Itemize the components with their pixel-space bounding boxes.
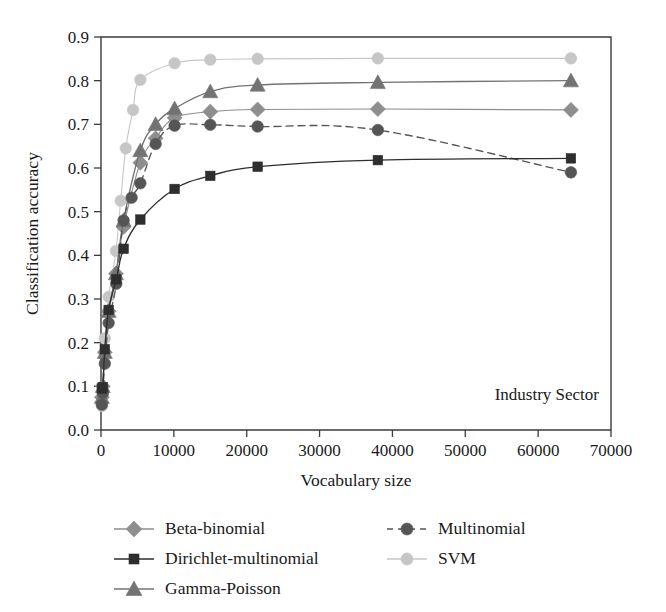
legend-key-square-icon [112, 548, 156, 570]
y-tick-label: 0.9 [68, 28, 89, 47]
data-point-square [206, 171, 216, 181]
data-point-square [100, 344, 110, 354]
data-point-square [136, 215, 146, 225]
legend-item-svm[interactable]: SVM [385, 544, 640, 574]
legend-item-multinomial[interactable]: Multinomial [385, 514, 640, 544]
series-dirichlet-multinomial [97, 154, 576, 394]
series-beta-binomial [94, 101, 578, 404]
legend-item-gamma-poisson[interactable]: Gamma-Poisson [112, 574, 367, 604]
data-point-square [119, 244, 129, 254]
data-point-circle [96, 399, 108, 411]
y-tick-label: 0.2 [68, 334, 89, 353]
data-point-circle [120, 143, 132, 155]
data-point-circle [401, 523, 413, 535]
data-point-triangle [203, 84, 218, 98]
data-point-square [129, 554, 139, 564]
data-point-square [373, 155, 383, 165]
y-tick-label: 0.0 [68, 421, 89, 440]
legend-item-label: SVM [438, 550, 476, 568]
data-point-circle [103, 317, 115, 329]
data-point-square [566, 154, 576, 164]
legend-item-label: Dirichlet-multinomial [165, 550, 319, 568]
y-tick-label: 0.1 [68, 377, 89, 396]
legend-key-triangle-icon [112, 578, 156, 600]
data-point-diamond [203, 104, 218, 119]
x-tick-label: 30000 [298, 441, 341, 460]
x-tick-label: 70000 [590, 441, 633, 460]
legend-item-dirichlet-multinomial[interactable]: Dirichlet-multinomial [112, 544, 367, 574]
data-point-triangle [563, 73, 578, 87]
data-point-circle [169, 57, 181, 69]
data-point-circle [127, 104, 139, 116]
x-tick-label: 10000 [153, 441, 196, 460]
data-point-circle [252, 121, 264, 133]
legend-key-circle-icon [385, 518, 429, 540]
data-point-circle [150, 138, 162, 150]
data-point-circle [401, 553, 413, 565]
y-tick-label: 0.8 [68, 72, 89, 91]
chart-figure: 0.00.10.20.30.40.50.60.70.80.90100002000… [0, 0, 666, 612]
y-tick-label: 0.6 [68, 159, 89, 178]
data-point-circle [115, 195, 127, 207]
data-point-circle [169, 120, 181, 132]
x-tick-label: 50000 [444, 441, 487, 460]
data-point-triangle [167, 101, 182, 115]
data-point-circle [118, 215, 130, 227]
data-point-diamond [250, 102, 265, 117]
x-tick-label: 60000 [517, 441, 560, 460]
data-point-square [98, 382, 108, 392]
y-tick-label: 0.7 [68, 115, 90, 134]
y-tick-label: 0.5 [68, 203, 89, 222]
legend-item-label: Multinomial [438, 520, 526, 538]
data-point-circle [372, 124, 384, 136]
legend-key-diamond-icon [112, 518, 156, 540]
series-line [102, 109, 571, 397]
y-tick-label: 0.3 [68, 290, 89, 309]
x-axis-title: Vocabulary size [301, 470, 412, 490]
data-point-circle [135, 178, 147, 190]
data-point-circle [205, 119, 217, 131]
data-point-square [112, 275, 122, 285]
series-line [102, 124, 571, 405]
x-tick-label: 0 [97, 441, 106, 460]
data-point-circle [252, 53, 264, 65]
data-point-circle [372, 53, 384, 65]
y-tick-label: 0.4 [68, 246, 90, 265]
y-axis-title: Classification accuracy [22, 152, 42, 315]
data-point-circle [565, 167, 577, 179]
data-point-diamond [126, 521, 142, 537]
plot-frame [101, 37, 611, 430]
legend-item-beta-binomial[interactable]: Beta-binomial [112, 514, 367, 544]
chart-legend: Beta-binomialMultinomialDirichlet-multin… [112, 514, 652, 606]
x-tick-label: 40000 [371, 441, 414, 460]
x-tick-label: 20000 [225, 441, 268, 460]
plot-annotation: Industry Sector [495, 385, 600, 404]
data-point-square [253, 162, 263, 172]
data-point-diamond [370, 101, 385, 116]
legend-key-circle-icon [385, 548, 429, 570]
data-point-square [104, 305, 114, 315]
legend-item-label: Beta-binomial [165, 520, 265, 538]
data-point-diamond [563, 102, 578, 117]
series-multinomial [96, 119, 577, 410]
data-point-square [170, 184, 180, 194]
data-point-circle [135, 74, 147, 86]
data-point-circle [565, 53, 577, 65]
data-point-circle [126, 192, 138, 204]
data-point-circle [205, 54, 217, 66]
legend-item-label: Gamma-Poisson [165, 580, 281, 598]
series-svm [96, 53, 577, 412]
